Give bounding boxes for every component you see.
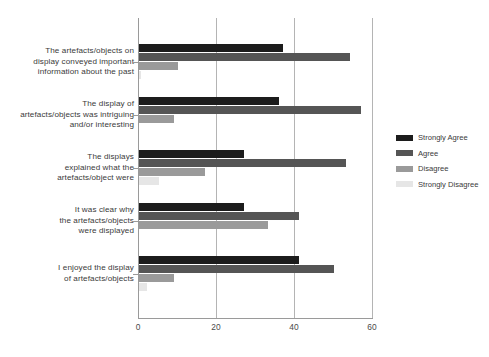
legend-item-3[interactable]: Strongly Disagree bbox=[396, 178, 478, 191]
bar-agree bbox=[139, 212, 299, 220]
bar-strongly-agree bbox=[139, 97, 279, 105]
bar-disagree bbox=[139, 168, 205, 176]
bar-agree bbox=[139, 265, 334, 273]
category-label-line: and/or interesting bbox=[2, 120, 134, 131]
legend: Strongly AgreeAgreeDisagreeStrongly Disa… bbox=[396, 131, 478, 193]
legend-label: Strongly Disagree bbox=[418, 180, 478, 189]
y-tick-mark-4 bbox=[133, 221, 138, 222]
category-label-5: I enjoyed the displayof artefacts/object… bbox=[2, 263, 134, 284]
x-tick-label-0: 0 bbox=[123, 322, 153, 332]
legend-swatch-icon bbox=[396, 150, 413, 156]
category-label-line: The displays bbox=[2, 152, 134, 163]
y-tick-mark-3 bbox=[133, 168, 138, 169]
x-axis-line bbox=[138, 318, 373, 319]
legend-item-0[interactable]: Strongly Agree bbox=[396, 131, 478, 144]
legend-swatch-icon bbox=[396, 181, 413, 187]
legend-label: Agree bbox=[418, 149, 438, 158]
bar-strongly-disagree bbox=[139, 177, 159, 185]
y-tick-mark-1 bbox=[133, 62, 138, 63]
x-tick-label-40: 40 bbox=[279, 322, 309, 332]
bar-disagree bbox=[139, 62, 178, 70]
category-label-line: explained what the bbox=[2, 163, 134, 174]
category-label-2: The display ofartefacts/objects was intr… bbox=[2, 99, 134, 131]
x-tick-label-20: 20 bbox=[201, 322, 231, 332]
bar-agree bbox=[139, 106, 361, 114]
bar-disagree bbox=[139, 274, 174, 282]
bar-strongly-agree bbox=[139, 203, 244, 211]
x-tick-label-60: 60 bbox=[357, 322, 387, 332]
legend-label: Strongly Agree bbox=[418, 133, 468, 142]
category-label-line: were displayed bbox=[2, 226, 134, 237]
bar-strongly-agree bbox=[139, 150, 244, 158]
category-label-1: The artefacts/objects ondisplay conveyed… bbox=[2, 46, 134, 78]
bar-strongly-disagree bbox=[139, 283, 147, 291]
bar-strongly-agree bbox=[139, 44, 283, 52]
bar-disagree bbox=[139, 221, 268, 229]
category-label-line: It was clear why bbox=[2, 205, 134, 216]
category-label-line: information about the past bbox=[2, 67, 134, 78]
category-label-line: the artefacts/objects bbox=[2, 216, 134, 227]
legend-swatch-icon bbox=[396, 135, 413, 141]
category-label-line: The display of bbox=[2, 99, 134, 110]
legend-label: Disagree bbox=[418, 164, 448, 173]
category-label-3: The displaysexplained what theartefacts/… bbox=[2, 152, 134, 184]
category-label-line: artefacts/object were bbox=[2, 173, 134, 184]
category-label-line: display conveyed important bbox=[2, 57, 134, 68]
category-label-4: It was clear whythe artefacts/objectswer… bbox=[2, 205, 134, 237]
bar-disagree bbox=[139, 115, 174, 123]
category-label-line: of artefacts/objects bbox=[2, 274, 134, 285]
bar-agree bbox=[139, 53, 350, 61]
bar-strongly-agree bbox=[139, 256, 299, 264]
gridline-20 bbox=[216, 18, 217, 318]
category-label-line: I enjoyed the display bbox=[2, 263, 134, 274]
bar-agree bbox=[139, 159, 346, 167]
category-label-line: The artefacts/objects on bbox=[2, 46, 134, 57]
legend-item-2[interactable]: Disagree bbox=[396, 162, 478, 175]
legend-item-1[interactable]: Agree bbox=[396, 147, 478, 160]
legend-swatch-icon bbox=[396, 166, 413, 172]
y-tick-mark-5 bbox=[133, 274, 138, 275]
y-tick-mark-2 bbox=[133, 115, 138, 116]
gridline-40 bbox=[294, 18, 295, 318]
bar-strongly-disagree bbox=[139, 71, 141, 79]
bar-chart: 0204060 The artefacts/objects ondisplay … bbox=[0, 0, 489, 357]
gridline-60 bbox=[372, 18, 373, 318]
category-label-line: artefacts/objects was intriguing bbox=[2, 110, 134, 121]
